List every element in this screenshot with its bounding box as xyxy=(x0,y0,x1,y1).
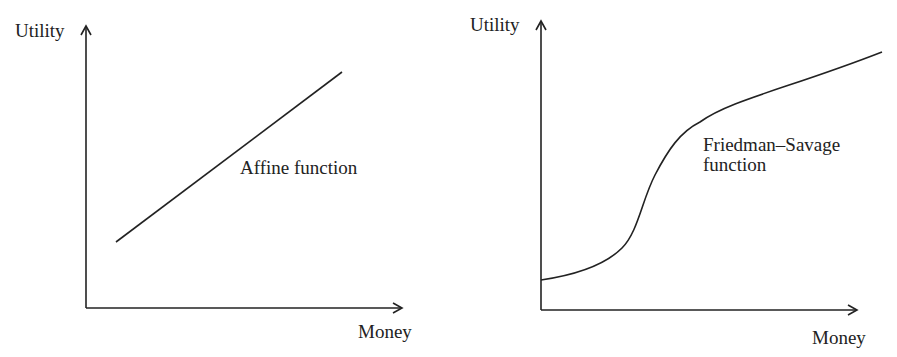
affine-label: Affine function xyxy=(240,157,358,178)
left-y-label: Utility xyxy=(15,20,65,41)
right-x-label: Money xyxy=(812,327,866,348)
right-y-label: Utility xyxy=(470,14,520,35)
fs-label-line1: Friedman–Savage xyxy=(703,134,840,155)
fs-label-line2: function xyxy=(703,154,767,175)
figure: Utility Money Affine function Utility Mo… xyxy=(0,0,897,357)
left-chart: Utility Money Affine function xyxy=(15,20,412,342)
right-chart: Utility Money Friedman–Savage function xyxy=(470,14,882,348)
left-x-label: Money xyxy=(358,321,412,342)
